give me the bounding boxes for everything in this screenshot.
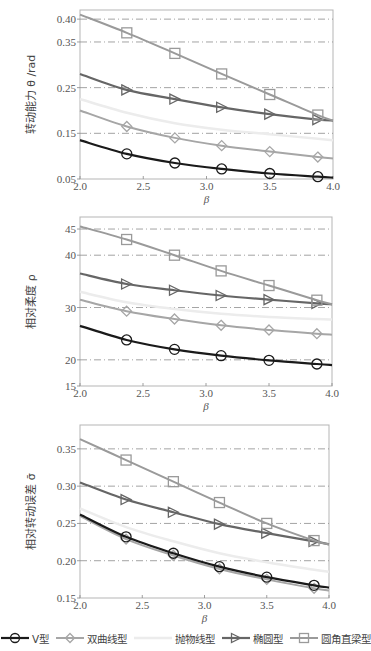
- series-elliptic: [80, 274, 332, 309]
- legend-label: 双曲线型: [87, 631, 127, 646]
- series-elliptic: [80, 74, 333, 125]
- y-tick-label: 30: [65, 302, 77, 314]
- legend-diamond-marker-icon: [55, 631, 85, 645]
- relative-compliance-chart: 15203040452.02.53.03.54.0β相对柔度 ρ: [24, 217, 339, 412]
- legend-circle-marker-icon: [0, 631, 30, 645]
- x-tick-label: 3.0: [200, 180, 214, 192]
- x-tick-label: 2.0: [73, 180, 87, 192]
- legend-item-v: V型: [0, 631, 49, 646]
- legend-label: 椭圆型: [253, 631, 283, 646]
- legend-triangle-marker-icon: [221, 631, 251, 645]
- x-axis-label: β: [203, 193, 210, 205]
- series-rounded: [80, 439, 329, 545]
- x-axis-label: β: [201, 612, 208, 624]
- legend-item-parabolic: 抛物线型: [133, 631, 215, 646]
- x-tick-label: 3.0: [198, 599, 212, 611]
- y-axis-label: 相对转动误差 σ̄: [24, 473, 38, 549]
- legend-item-elliptic: 椭圆型: [221, 631, 283, 646]
- y-tick-label: 0.15: [57, 127, 77, 139]
- y-tick-label: 0.30: [57, 480, 77, 492]
- x-tick-label: 2.5: [136, 180, 150, 192]
- series-v: [80, 140, 333, 182]
- y-tick-label: 0.25: [57, 82, 77, 94]
- y-tick-label: 0.20: [57, 555, 77, 567]
- series-parabolic: [80, 292, 332, 320]
- y-tick-label: 0.40: [57, 13, 77, 25]
- legend-label: 圆角直梁型: [321, 631, 371, 646]
- legend: V型 双曲线型 抛物线型 椭圆型 圆角直梁型: [0, 628, 370, 648]
- legend-label: V型: [32, 631, 49, 646]
- y-tick-label: 20: [65, 354, 77, 366]
- y-tick-label: 0.35: [57, 36, 77, 48]
- y-axis-label: 相对柔度 ρ: [24, 274, 38, 328]
- x-tick-label: 3.0: [199, 387, 213, 399]
- x-axis-label: β: [202, 400, 209, 412]
- x-tick-label: 2.5: [135, 599, 149, 611]
- y-tick-label: 45: [65, 223, 77, 235]
- x-tick-label: 2.0: [73, 599, 87, 611]
- legend-item-rounded: 圆角直梁型: [289, 631, 371, 646]
- x-tick-label: 4.0: [326, 180, 340, 192]
- x-tick-label: 3.5: [263, 180, 277, 192]
- x-tick-label: 3.5: [260, 599, 274, 611]
- series-v: [80, 514, 329, 590]
- relative-rotation-error-chart: 0.150.200.250.300.352.02.53.03.54.0β相对转动…: [24, 425, 336, 624]
- x-tick-label: 4.0: [322, 599, 336, 611]
- x-tick-label: 2.5: [136, 387, 150, 399]
- x-tick-label: 4.0: [325, 387, 339, 399]
- legend-plain-line-icon: [133, 631, 173, 645]
- y-axis-label: 转动能力 θ /rad: [24, 55, 38, 135]
- series-elliptic: [80, 482, 329, 546]
- y-tick-label: 0.25: [57, 517, 77, 529]
- legend-item-hyperbolic: 双曲线型: [55, 631, 127, 646]
- y-tick-label: 0.35: [57, 443, 77, 455]
- legend-square-marker-icon: [289, 631, 319, 645]
- plot-frame: [80, 425, 329, 598]
- y-tick-label: 40: [65, 249, 77, 261]
- legend-label: 抛物线型: [175, 631, 215, 646]
- x-tick-label: 2.0: [73, 387, 87, 399]
- rotation-capacity-chart: 0.050.150.250.350.402.02.53.03.54.0β转动能力…: [24, 10, 340, 205]
- x-tick-label: 3.5: [262, 387, 276, 399]
